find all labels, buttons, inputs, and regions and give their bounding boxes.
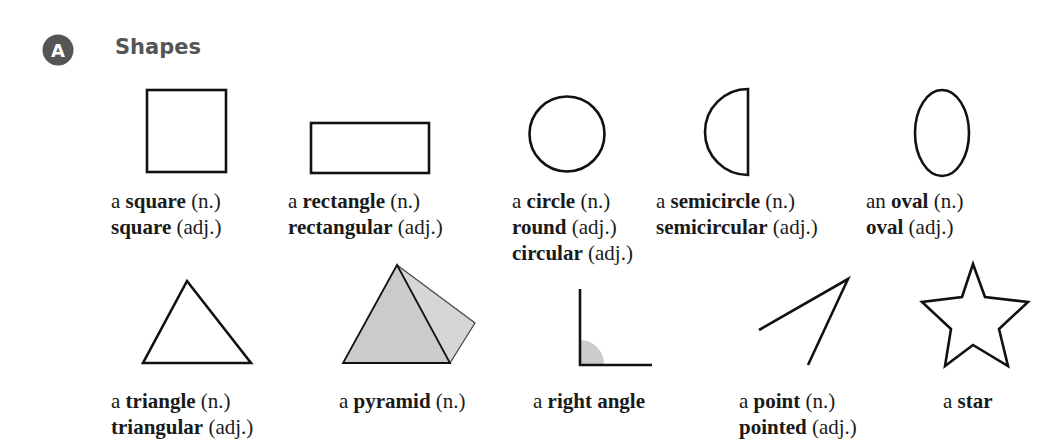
label-line: pointed (adj.) [739, 414, 857, 440]
label-line: circular (adj.) [512, 240, 633, 266]
label-line: a circle (n.) [512, 188, 633, 214]
label-line: triangular (adj.) [111, 414, 253, 440]
triangle-icon [143, 281, 251, 363]
square-icon [147, 90, 226, 172]
pyramid-icon [343, 265, 475, 363]
point-icon [759, 279, 848, 365]
circle-icon [530, 97, 605, 172]
label-point: a point (n.) pointed (adj.) [739, 388, 857, 440]
label-line: an oval (n.) [866, 188, 963, 214]
section-badge: A [43, 35, 74, 66]
label-square: a square (n.) square (adj.) [111, 188, 221, 240]
label-star: a star [943, 388, 993, 414]
section-title: Shapes [115, 35, 201, 59]
label-line: a rectangle (n.) [288, 188, 443, 214]
label-circle: a circle (n.) round (adj.) circular (adj… [512, 188, 633, 266]
label-line: a semicircle (n.) [656, 188, 818, 214]
label-line: semicircular (adj.) [656, 214, 818, 240]
star-icon [922, 264, 1028, 366]
label-line: a star [943, 388, 993, 414]
label-oval: an oval (n.) oval (adj.) [866, 188, 963, 240]
label-pyramid: a pyramid (n.) [339, 388, 466, 414]
label-line: square (adj.) [111, 214, 221, 240]
badge-letter: A [51, 40, 65, 61]
label-line: a square (n.) [111, 188, 221, 214]
label-line: a right angle [533, 388, 645, 414]
oval-icon [915, 90, 969, 176]
label-line: a pyramid (n.) [339, 388, 466, 414]
label-line: a point (n.) [739, 388, 857, 414]
label-right-angle: a right angle [533, 388, 645, 414]
label-triangle: a triangle (n.) triangular (adj.) [111, 388, 253, 440]
right-angle-icon [580, 289, 652, 365]
label-line: round (adj.) [512, 214, 633, 240]
label-rectangle: a rectangle (n.) rectangular (adj.) [288, 188, 443, 240]
label-line: a triangle (n.) [111, 388, 253, 414]
rectangle-icon [311, 123, 429, 173]
semicircle-icon [705, 89, 748, 175]
label-line: oval (adj.) [866, 214, 963, 240]
label-semicircle: a semicircle (n.) semicircular (adj.) [656, 188, 818, 240]
label-line: rectangular (adj.) [288, 214, 443, 240]
